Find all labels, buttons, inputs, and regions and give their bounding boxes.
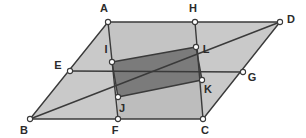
vertex-label-b: B (20, 124, 28, 136)
figure-canvas: ABCDEFGHIJKL (0, 0, 306, 138)
vertex-label-l: L (203, 43, 210, 55)
vertex-label-e: E (54, 59, 61, 71)
geometry-figure: ABCDEFGHIJKL (0, 0, 306, 138)
vertex-label-a: A (100, 2, 108, 14)
vertex-point-h[interactable] (192, 19, 197, 24)
vertex-point-c[interactable] (200, 116, 205, 121)
vertex-point-e[interactable] (67, 68, 72, 73)
vertex-point-k[interactable] (199, 77, 204, 82)
vertex-label-k: K (204, 83, 212, 95)
segment-EG (70, 71, 243, 72)
vertex-point-l[interactable] (193, 44, 198, 49)
vertex-label-d: D (287, 13, 295, 25)
vertex-point-j[interactable] (115, 94, 120, 99)
vertex-point-i[interactable] (109, 59, 114, 64)
vertex-point-d[interactable] (277, 19, 282, 24)
vertex-point-f[interactable] (115, 116, 120, 121)
vertex-label-j: J (119, 102, 125, 114)
vertex-label-g: G (248, 71, 257, 83)
vertex-label-c: C (201, 124, 209, 136)
vertex-label-f: F (112, 124, 119, 136)
vertex-point-a[interactable] (105, 19, 110, 24)
vertex-point-g[interactable] (240, 69, 245, 74)
vertex-point-b[interactable] (27, 116, 32, 121)
vertex-label-i: I (104, 43, 107, 55)
vertex-label-h: H (189, 2, 197, 14)
